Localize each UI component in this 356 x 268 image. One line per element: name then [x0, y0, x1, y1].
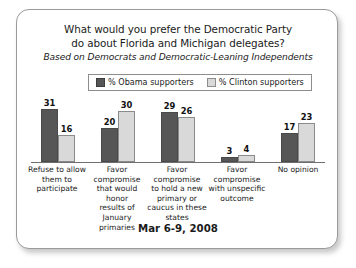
chart-subtitle: Based on Democrats and Democratic-Leanin…	[25, 51, 331, 64]
bar-value-label: 29	[164, 102, 176, 111]
bar-value-label: 26	[181, 107, 193, 116]
category-label-line: results of January	[87, 203, 147, 222]
category-label-line: primary or	[147, 194, 207, 204]
chart-legend: % Obama supporters % Clinton supporters	[88, 74, 312, 91]
category-label-line: with unspecific	[207, 184, 267, 194]
bar-clinton	[238, 155, 255, 162]
bar-clinton	[178, 117, 195, 162]
bar-value-label: 4	[244, 145, 250, 154]
bar-column: 29	[161, 102, 178, 163]
bar-group: 1723	[281, 113, 315, 163]
bar-clinton	[118, 111, 135, 162]
bar-column: 20	[101, 118, 118, 163]
category-label-line: caucus in these	[147, 203, 207, 213]
chart-title-line-1: What would you prefer the Democratic Par…	[25, 23, 331, 37]
legend-swatch-clinton-icon	[207, 78, 216, 87]
category-label-line: compromise	[207, 175, 267, 185]
bar-obama	[221, 157, 238, 162]
legend-label-obama: % Obama supporters	[108, 77, 194, 87]
bar-value-label: 20	[104, 118, 116, 127]
category-label-line: Favor	[87, 165, 147, 175]
category-label-line: them to	[27, 175, 87, 185]
chart-title-line-2: do about Florida and Michigan delegates?	[25, 37, 331, 51]
category-label-line: compromise	[87, 175, 147, 185]
bar-obama	[161, 112, 178, 162]
bar-value-label: 30	[121, 101, 133, 110]
bar-group: 2926	[161, 102, 195, 163]
bar-column: 4	[238, 145, 255, 163]
category-label-line: participate	[27, 184, 87, 194]
bar-column: 17	[281, 123, 298, 163]
bar-value-label: 17	[284, 123, 296, 132]
category-label-line: No opinion	[267, 165, 329, 175]
category-label-line: Refuse to allow	[27, 165, 87, 175]
bar-group: 34	[221, 145, 255, 163]
category-label-line: Favor	[207, 165, 267, 175]
bar-group: 2030	[101, 101, 135, 163]
legend-swatch-obama-icon	[96, 78, 105, 87]
category-label-line: states	[147, 213, 207, 223]
bar-column: 30	[118, 101, 135, 163]
category-label-line: to hold a new	[147, 184, 207, 194]
bar-column: 16	[58, 125, 75, 163]
bar-column: 3	[221, 147, 238, 163]
category-label-line: outcome	[207, 194, 267, 204]
bar-clinton	[58, 135, 75, 162]
chart-card: What would you prefer the Democratic Par…	[16, 9, 338, 249]
category-label-line: that would honor	[87, 184, 147, 203]
bar-value-label: 16	[61, 125, 73, 134]
bar-value-label: 31	[44, 99, 56, 108]
bar-column: 26	[178, 107, 195, 163]
bar-column: 23	[298, 113, 315, 163]
category-label-line: Favor	[147, 165, 207, 175]
bar-obama	[101, 128, 118, 162]
chart-footer-date: Mar 6-9, 2008	[25, 223, 331, 234]
plot-area: 311620302926341723	[31, 102, 325, 162]
bar-obama	[281, 133, 298, 162]
title-block: What would you prefer the Democratic Par…	[25, 23, 331, 64]
bar-value-label: 23	[301, 113, 313, 122]
x-axis-line	[31, 162, 325, 163]
bar-obama	[41, 109, 58, 162]
legend-item-clinton: % Clinton supporters	[207, 77, 304, 87]
bar-value-label: 3	[227, 147, 233, 156]
bar-clinton	[298, 123, 315, 162]
bar-group: 3116	[41, 99, 75, 163]
category-label-line: compromise	[147, 175, 207, 185]
legend-item-obama: % Obama supporters	[96, 77, 194, 87]
legend-label-clinton: % Clinton supporters	[219, 77, 304, 87]
bar-column: 31	[41, 99, 58, 163]
